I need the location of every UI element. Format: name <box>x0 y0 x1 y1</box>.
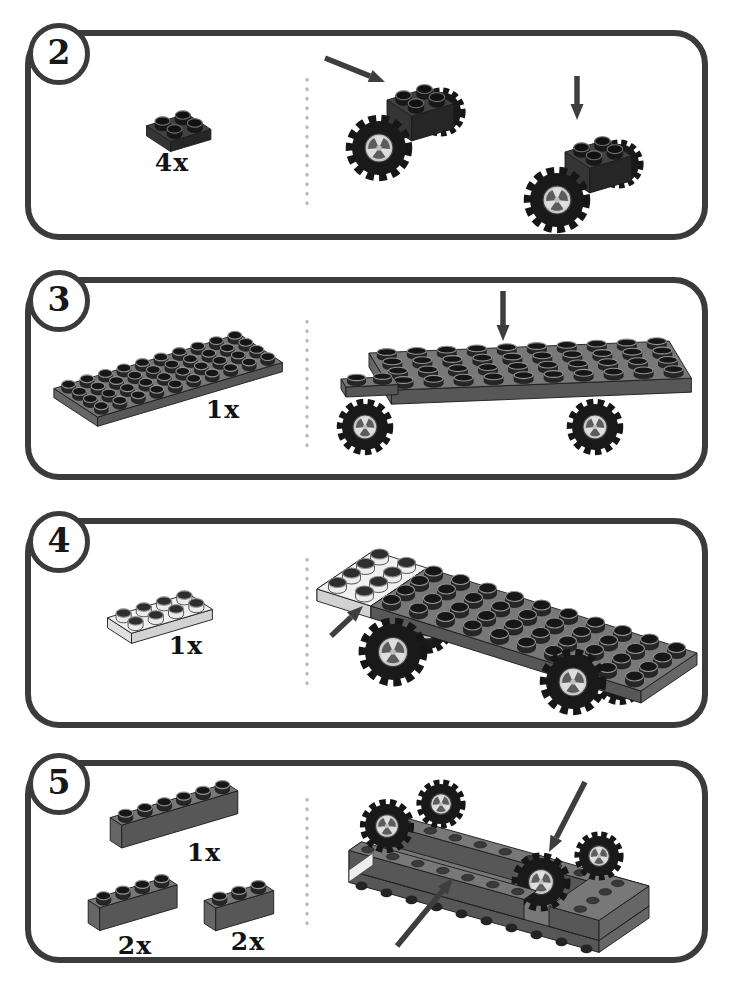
assembly-illustration-step-4 <box>307 520 705 724</box>
wheel-icon <box>577 834 620 877</box>
brick-1x4-gray-icon <box>79 866 186 933</box>
plate-4x10-gray-icon <box>45 323 291 428</box>
step-2-panel: 2 4x <box>25 30 708 240</box>
part-quantity: 2x <box>107 931 163 960</box>
arrow-icon <box>549 782 585 852</box>
wheel-icon <box>570 402 620 452</box>
arrow-icon <box>497 291 510 341</box>
step-5-panel: 5 1x 2x 2x <box>25 760 708 963</box>
wheel-icon <box>419 782 462 825</box>
step-number: 4 <box>48 521 71 560</box>
step-number-badge: 2 <box>28 23 90 85</box>
assembly-illustration-step-3 <box>307 279 705 477</box>
part-quantity: 1x <box>195 395 251 424</box>
step-3-panel: 3 1x <box>25 277 708 480</box>
step-number-badge: 5 <box>28 753 90 815</box>
brick-1x3-gray-icon <box>195 872 283 933</box>
arrow-icon <box>571 76 584 120</box>
step-number: 5 <box>48 763 71 802</box>
step-4-panel: 4 1x <box>25 518 708 728</box>
wheel-icon <box>340 402 390 452</box>
part-quantity: 1x <box>176 838 232 867</box>
step-number-badge: 3 <box>28 270 90 332</box>
plate-2x2-dark-gray-icon <box>137 102 221 154</box>
part-quantity: 2x <box>220 927 276 956</box>
part-quantity: 1x <box>158 631 214 660</box>
step-number-badge: 4 <box>28 511 90 573</box>
arrow-icon <box>325 58 385 82</box>
part-quantity: 4x <box>144 148 200 177</box>
assembly-illustration-step-5 <box>307 760 705 962</box>
instruction-page: 2 4x 3 <box>0 0 731 989</box>
assembly-illustration-step-2 <box>307 32 705 236</box>
step-number: 2 <box>48 33 71 72</box>
step-number: 3 <box>48 280 71 319</box>
